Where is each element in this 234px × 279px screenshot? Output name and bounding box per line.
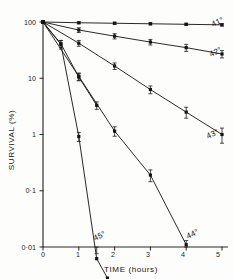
data-point (220, 133, 223, 136)
data-point (185, 111, 188, 114)
x-tick-label-3: 3 (146, 250, 150, 259)
x-tick-label-1: 1 (76, 250, 80, 259)
data-point (95, 257, 98, 260)
data-point (113, 129, 116, 132)
x-axis-tick-labels: 0 1 2 3 4 5 (41, 250, 220, 259)
y-tick-label-0-1: 0·1 (26, 186, 36, 195)
data-point (185, 23, 188, 26)
data-point (59, 42, 62, 45)
data-point (77, 75, 80, 78)
data-point (95, 104, 98, 107)
series-label-43: 43° (205, 127, 220, 141)
y-tick-label-1: 1 (32, 130, 36, 139)
data-series-layer (41, 20, 224, 279)
survival-curve-figure: 100 10 1 0·1 0·01 0 1 2 3 4 5 TIME (hour… (0, 0, 234, 279)
data-point (77, 28, 80, 31)
series-line (43, 22, 222, 25)
series-label-42: 42° (208, 45, 223, 59)
series-label-44: 44° (185, 227, 200, 241)
series-43° (43, 22, 224, 143)
data-point (77, 42, 80, 45)
chart-canvas: 100 10 1 0·1 0·01 0 1 2 3 4 5 TIME (hour… (0, 0, 234, 279)
y-tick-label-0-01: 0·01 (22, 243, 36, 252)
x-axis-title: TIME (hours) (104, 265, 158, 274)
y-tick-label-10: 10 (28, 74, 36, 83)
y-axis-title: SURVIVAL (%) (7, 110, 16, 170)
series-44° (43, 22, 188, 247)
x-tick-label-4: 4 (181, 250, 185, 259)
series-label-45: 45° (92, 229, 107, 243)
data-point (149, 88, 152, 91)
x-tick-label-5: 5 (216, 250, 220, 259)
data-point (149, 22, 152, 25)
data-point (149, 40, 152, 43)
data-point (185, 243, 188, 246)
x-tick-label-2: 2 (111, 250, 115, 259)
series-42° (43, 22, 224, 58)
origin-data-point (41, 20, 45, 24)
series-41° (43, 21, 224, 26)
data-point (185, 46, 188, 49)
y-tick-label-100: 100 (24, 18, 36, 27)
data-point (149, 173, 152, 176)
data-point (113, 22, 116, 25)
data-point (77, 135, 80, 138)
series-label-41: 41° (210, 15, 225, 29)
x-tick-label-0: 0 (41, 250, 45, 259)
data-point (113, 35, 116, 38)
y-axis-tick-labels: 100 10 1 0·1 0·01 (22, 18, 36, 252)
series-labels-layer: 41° 42° 43° 44° 45° (92, 15, 225, 243)
data-point (113, 64, 116, 67)
data-point (77, 21, 80, 24)
